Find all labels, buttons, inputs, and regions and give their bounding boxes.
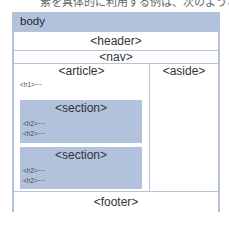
- main-row: <article> <h1>⋯ <section> <h2>⋯ <h2>⋯ <s…: [14, 63, 218, 191]
- section-label: <section>: [20, 101, 142, 115]
- footer-box: <footer>: [14, 191, 218, 212]
- nav-box: <nav>: [14, 50, 218, 63]
- h1-label: <h1>⋯: [20, 81, 42, 89]
- h2-label: <h2>⋯: [23, 177, 45, 185]
- aside-box: <aside>: [150, 64, 218, 191]
- article-label: <article>: [14, 64, 149, 78]
- caption-text: 素を具体的に利用する例は、次のようなもの: [40, 0, 229, 9]
- section-box-1: <section> <h2>⋯ <h2>⋯: [20, 100, 142, 143]
- aside-label: <aside>: [150, 64, 218, 78]
- h2-label: <h2>⋯: [23, 120, 45, 128]
- article-box: <article> <h1>⋯ <section> <h2>⋯ <h2>⋯ <s…: [14, 64, 150, 191]
- section-box-2: <section> <h2>⋯ <h2>⋯: [20, 147, 142, 189]
- h2-label: <h2>⋯: [23, 130, 45, 138]
- body-label: body: [20, 15, 45, 27]
- body-box: body <header> <nav> <article> <h1>⋯ <sec…: [12, 12, 220, 212]
- header-box: <header>: [14, 31, 218, 50]
- section-label: <section>: [20, 148, 142, 162]
- h2-label: <h2>⋯: [23, 167, 45, 175]
